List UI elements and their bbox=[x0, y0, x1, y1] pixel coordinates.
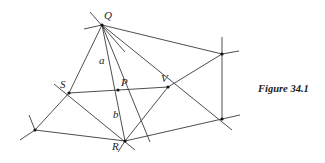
point-label-p: P bbox=[120, 76, 128, 88]
line-segment bbox=[222, 115, 240, 119]
figure-caption: Figure 34.1 bbox=[257, 83, 309, 94]
point-v bbox=[166, 85, 169, 88]
point-br bbox=[220, 117, 223, 120]
line-segment bbox=[118, 141, 125, 152]
line-segment bbox=[222, 51, 239, 54]
point-p bbox=[116, 88, 119, 91]
point-s bbox=[67, 91, 70, 94]
point-label-s: S bbox=[60, 78, 66, 90]
point-label-q: Q bbox=[104, 9, 112, 21]
figure-canvas: QSPVRab Figure 34.1 bbox=[0, 0, 325, 163]
point-bl bbox=[33, 128, 36, 131]
segment-label-a: a bbox=[99, 54, 105, 66]
line-segment bbox=[168, 54, 222, 87]
point-r bbox=[123, 139, 126, 142]
geometry-diagram: QSPVRab Figure 34.1 bbox=[0, 0, 325, 163]
line-segment bbox=[69, 25, 102, 93]
point-q bbox=[100, 23, 103, 26]
point-label-r: R bbox=[111, 140, 119, 152]
line-segment bbox=[54, 84, 135, 150]
point-tr bbox=[220, 52, 223, 55]
labels-layer: QSPVRab bbox=[60, 9, 169, 152]
lines-layer bbox=[20, 12, 240, 152]
line-segment bbox=[35, 93, 69, 130]
segment-label-b: b bbox=[113, 108, 119, 120]
line-segment bbox=[20, 130, 35, 140]
line-segment bbox=[84, 25, 102, 29]
line-segment bbox=[29, 115, 35, 130]
